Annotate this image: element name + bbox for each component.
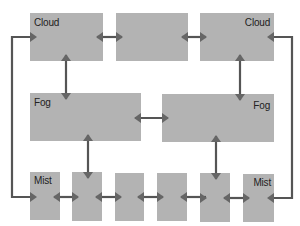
arrow-up-icon: [61, 54, 71, 61]
arrow-left-icon: [180, 192, 187, 202]
arrow-up-icon: [211, 135, 221, 142]
loop-connector-left: [12, 37, 32, 197]
arrow-left-icon: [181, 32, 188, 42]
arrow-left-icon: [134, 113, 141, 123]
arrow-right-icon: [30, 192, 37, 202]
arrow-down-icon: [83, 172, 93, 179]
arrow-up-icon: [235, 54, 245, 61]
arrow-down-icon: [235, 94, 245, 101]
arrow-right-icon: [116, 32, 123, 42]
arrow-left-icon: [137, 192, 144, 202]
arrow-right-icon: [200, 193, 207, 203]
arrow-up-icon: [83, 134, 93, 141]
arrow-left-icon: [223, 193, 230, 203]
arrow-left-icon: [267, 32, 274, 42]
connectors: [0, 0, 300, 226]
arrow-right-icon: [157, 192, 164, 202]
arrow-right-icon: [243, 193, 250, 203]
arrow-left-icon: [95, 192, 102, 202]
arrow-right-icon: [72, 192, 79, 202]
arrow-down-icon: [61, 93, 71, 100]
arrow-right-icon: [115, 192, 122, 202]
loop-connector-right: [272, 37, 292, 198]
arrow-right-icon: [162, 113, 169, 123]
arrow-left-icon: [96, 32, 103, 42]
layered-network-diagram: Cloud Cloud Fog Fog Mist Mist: [0, 0, 300, 226]
arrow-down-icon: [211, 173, 221, 180]
arrow-right-icon: [30, 32, 37, 42]
arrow-left-icon: [267, 193, 274, 203]
arrow-right-icon: [200, 32, 207, 42]
arrow-left-icon: [53, 192, 60, 202]
